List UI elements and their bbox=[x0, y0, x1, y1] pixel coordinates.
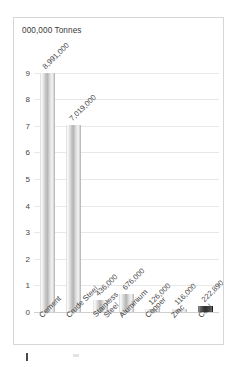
x-axis-category-labels: CementCrude SteelStainless SteelAluminiu… bbox=[34, 314, 219, 345]
y-tick-label-2: 2 bbox=[26, 254, 30, 263]
value-label-coal: 222,890 bbox=[199, 278, 224, 304]
y-tick-label-4: 4 bbox=[26, 201, 30, 210]
bar-slot-coal: 222,890 bbox=[198, 62, 213, 312]
bar-slot-copper: 126,000 bbox=[145, 62, 160, 312]
bars-group: 8,991,0007,019,000436,000676,000126,0001… bbox=[34, 62, 219, 312]
y-tick-label-8: 8 bbox=[26, 95, 30, 104]
chart-frame: 000,000 Tonnes 0123456789 8,991,0007,019… bbox=[13, 17, 224, 345]
y-tick-label-3: 3 bbox=[26, 228, 30, 237]
page-artifact-smudge bbox=[73, 354, 79, 357]
bar-crude-steel[interactable] bbox=[66, 125, 81, 312]
value-label-zinc: 116,000 bbox=[173, 282, 198, 307]
bar-cement[interactable] bbox=[40, 73, 55, 312]
y-tick-label-0: 0 bbox=[26, 308, 30, 317]
y-tick-label-7: 7 bbox=[26, 121, 30, 130]
bar-slot-cement: 8,991,000 bbox=[40, 62, 55, 312]
bar-slot-aluminium: 676,000 bbox=[119, 62, 134, 312]
plot-area: 0123456789 8,991,0007,019,000436,000676,… bbox=[34, 62, 219, 312]
bar-slot-stainless-steel: 436,000 bbox=[93, 62, 108, 312]
y-tick-label-5: 5 bbox=[26, 175, 30, 184]
bar-slot-crude-steel: 7,019,000 bbox=[66, 62, 81, 312]
y-tick-label-9: 9 bbox=[26, 68, 30, 77]
page-artifact-mark bbox=[26, 353, 28, 361]
y-tick-label-1: 1 bbox=[26, 281, 30, 290]
chart-units-title: 000,000 Tonnes bbox=[22, 26, 82, 35]
y-tick-label-6: 6 bbox=[26, 148, 30, 157]
bar-slot-zinc: 116,000 bbox=[172, 62, 187, 312]
